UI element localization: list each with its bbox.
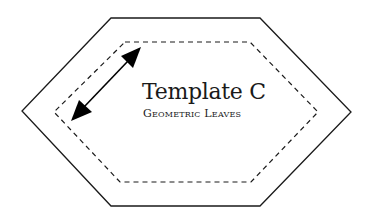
seam-allowance-arrow-icon: [71, 47, 141, 121]
template-diagram: Template C Geometric Leaves: [0, 0, 371, 221]
template-subtitle: Geometric Leaves: [143, 107, 241, 120]
template-title: Template C: [142, 80, 266, 104]
